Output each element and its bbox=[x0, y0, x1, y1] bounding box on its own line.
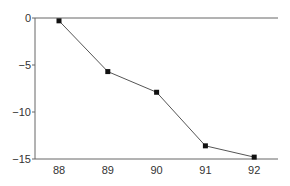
y-tick-label: −10 bbox=[12, 106, 31, 118]
x-tick-label: 90 bbox=[150, 164, 162, 176]
y-tick-label: −5 bbox=[18, 59, 31, 71]
data-point-marker bbox=[252, 155, 257, 160]
axes bbox=[35, 18, 278, 159]
data-point-marker bbox=[57, 18, 62, 23]
line-chart: 0−5−10−15 8889909192 bbox=[0, 0, 290, 186]
y-axis-labels: 0−5−10−15 bbox=[12, 12, 35, 165]
x-tick-label: 91 bbox=[199, 164, 211, 176]
y-tick-label: 0 bbox=[25, 12, 31, 24]
data-point-marker bbox=[203, 143, 208, 148]
x-axis-labels: 8889909192 bbox=[53, 164, 260, 176]
series-line bbox=[59, 21, 254, 157]
data-series bbox=[57, 18, 257, 159]
y-tick-label: −15 bbox=[12, 153, 31, 165]
data-point-marker bbox=[105, 69, 110, 74]
x-tick-label: 88 bbox=[53, 164, 65, 176]
x-tick-label: 92 bbox=[248, 164, 260, 176]
x-tick-label: 89 bbox=[102, 164, 114, 176]
data-point-marker bbox=[154, 90, 159, 95]
